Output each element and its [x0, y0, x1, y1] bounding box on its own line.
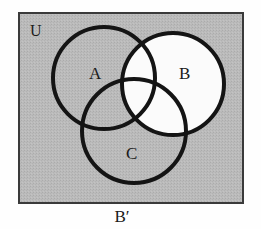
venn-diagram-canvas: U A B C B′	[0, 0, 261, 229]
set-label-b: B	[179, 64, 190, 83]
set-label-a: A	[89, 64, 102, 83]
shaded-region-b-complement	[19, 13, 243, 203]
set-label-c: C	[126, 144, 137, 163]
universe-label: U	[30, 22, 42, 39]
figure-caption: B′	[114, 207, 129, 226]
universe-rectangle	[19, 13, 243, 203]
venn-diagram-figure: U A B C B′	[0, 0, 261, 229]
